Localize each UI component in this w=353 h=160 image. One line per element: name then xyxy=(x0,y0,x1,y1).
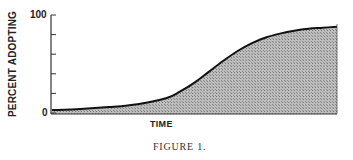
y-axis-label: PERCENT ADOPTING xyxy=(2,15,22,113)
figure-caption: FIGURE 1. xyxy=(153,141,206,152)
y-tick-label-100: 100 xyxy=(30,9,47,20)
x-axis-label: TIME xyxy=(150,119,173,129)
y-ticks xyxy=(51,15,56,113)
y-tick-label-0: 0 xyxy=(42,107,48,118)
y-axis-label-text: PERCENT ADOPTING xyxy=(7,11,18,117)
adoption-chart xyxy=(0,0,353,160)
adoption-area xyxy=(52,27,337,114)
